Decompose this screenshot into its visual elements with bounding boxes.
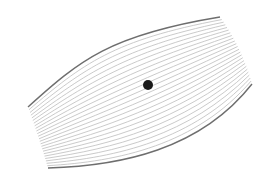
streamline-diagram: [0, 0, 270, 182]
center-dot: [143, 80, 153, 90]
flow-line: [39, 49, 239, 139]
flow-lines-group: [29, 20, 251, 166]
flow-line: [36, 41, 234, 131]
flow-line: [41, 55, 242, 144]
